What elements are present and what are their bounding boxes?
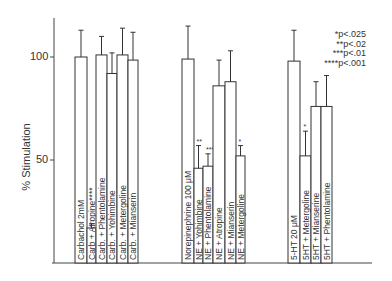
- category-label: NE + Atropine: [214, 207, 224, 260]
- category-label: Carbachol 2mM: [76, 200, 86, 260]
- significance-marker: *: [239, 138, 242, 145]
- significance-marker: **: [197, 138, 203, 145]
- category-label: Carb. + Mianserin: [128, 192, 138, 260]
- category-label: NE + Metergoline: [236, 194, 246, 260]
- category-label: Carb + Atropine****: [87, 187, 97, 260]
- category-label: NE + Yohimbine: [194, 199, 204, 260]
- bar-chart: Carbachol 2mMCarb + Atropine****Carb. + …: [0, 0, 392, 281]
- significance-marker: *: [304, 123, 307, 130]
- category-label: Norepinephrine 100 μM: [183, 171, 193, 260]
- category-label: Carb. + Yohimbine: [107, 190, 117, 260]
- category-label: Carb. + Phentolamine: [97, 177, 107, 260]
- category-label: 5HT + Metergoline: [301, 190, 311, 260]
- category-label: 5-HT 20 μM: [289, 215, 299, 260]
- category-label: NE + Mianserin: [226, 201, 236, 260]
- category-label: Carb. + Metergoline: [118, 185, 128, 260]
- category-label: 5HT + Mianserine: [311, 193, 321, 260]
- category-label: NE + Phentolamine: [203, 186, 213, 260]
- category-label: 5HT + Phentolamine: [322, 182, 332, 260]
